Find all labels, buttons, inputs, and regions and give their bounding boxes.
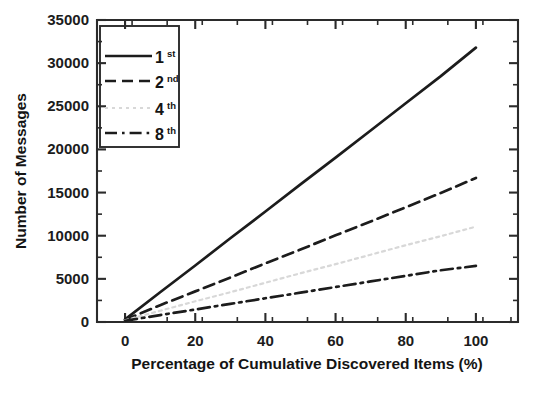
series-line-1st: [125, 48, 476, 320]
x-tick-label: 20: [187, 332, 204, 349]
figure-container: 05000100001500020000250003000035000 0204…: [0, 0, 538, 396]
y-tick-label: 0: [81, 313, 89, 330]
x-tick-label: 60: [327, 332, 344, 349]
x-tick-label: 80: [397, 332, 414, 349]
legend-label-2: 2: [155, 74, 164, 91]
y-tick-label: 15000: [47, 184, 89, 201]
x-tick-label: 100: [463, 332, 488, 349]
line-chart: 05000100001500020000250003000035000 0204…: [0, 0, 538, 396]
y-tick-label: 25000: [47, 97, 89, 114]
legend[interactable]: 1st2nd4th8th: [100, 26, 179, 147]
legend-label-sup-8: th: [167, 125, 176, 136]
y-tick-label: 20000: [47, 140, 89, 157]
x-tick-label: 40: [257, 332, 274, 349]
legend-label-8: 8: [155, 126, 164, 143]
y-tick-label: 35000: [47, 11, 89, 28]
legend-label-1: 1: [155, 49, 164, 66]
y-tick-label: 10000: [47, 227, 89, 244]
legend-label-4: 4: [155, 101, 164, 118]
x-axis-title: Percentage of Cumulative Discovered Item…: [131, 355, 482, 372]
y-tick-label: 5000: [56, 270, 89, 287]
legend-label-sup-2: nd: [167, 73, 179, 84]
x-tick-label: 0: [121, 332, 129, 349]
data-series-group: [125, 48, 476, 321]
y-axis-ticks: 05000100001500020000250003000035000: [47, 11, 518, 330]
y-axis-title: Number of Messages: [12, 93, 29, 249]
y-tick-label: 30000: [47, 54, 89, 71]
legend-label-sup-4: th: [167, 100, 176, 111]
legend-label-sup-1: st: [167, 48, 176, 59]
legend-items: 1st2nd4th8th: [105, 48, 179, 143]
series-line-2nd: [125, 178, 476, 320]
